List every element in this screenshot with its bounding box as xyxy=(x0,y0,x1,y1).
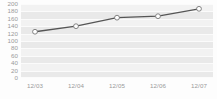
y-tick-label: 180 xyxy=(7,8,18,14)
y-tick-label: 200 xyxy=(7,1,18,7)
data-point-marker xyxy=(74,24,79,29)
y-tick-label: 160 xyxy=(7,16,18,22)
y-tick-label: 100 xyxy=(7,38,18,44)
y-tick-label: 20 xyxy=(11,67,18,73)
y-tick-label: 60 xyxy=(11,53,18,59)
y-tick-label: 80 xyxy=(11,45,18,51)
series-layer xyxy=(21,4,213,78)
data-point-marker xyxy=(197,6,202,11)
y-axis: 200180160140120100806040200 xyxy=(0,0,20,82)
y-tick-label: 120 xyxy=(7,30,18,36)
x-tick-label: 12/07 xyxy=(191,82,207,90)
x-tick-label: 12/06 xyxy=(150,82,166,90)
x-tick-label: 12/03 xyxy=(27,82,43,90)
line-chart: 200180160140120100806040200 12/0312/0412… xyxy=(0,0,217,99)
y-tick-label: 40 xyxy=(11,60,18,66)
y-tick-label: 0 xyxy=(14,75,18,81)
series-markers xyxy=(33,6,202,34)
y-tick-label: 140 xyxy=(7,23,18,29)
data-point-marker xyxy=(33,29,38,34)
data-point-marker xyxy=(115,15,120,20)
x-tick-label: 12/04 xyxy=(68,82,84,90)
x-tick-label: 12/05 xyxy=(109,82,125,90)
data-point-marker xyxy=(156,14,161,19)
x-axis: 12/0312/0412/0512/0612/07 xyxy=(21,82,213,96)
plot-area xyxy=(21,4,213,78)
